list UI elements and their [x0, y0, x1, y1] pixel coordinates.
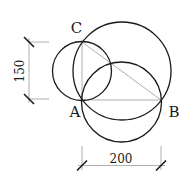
point-label-c: C	[71, 19, 82, 37]
geometry-diagram: 150 200 C A B	[0, 0, 190, 186]
point-label-a: A	[69, 103, 81, 121]
segment-bc	[82, 42, 161, 100]
circle-diameter-ab	[82, 62, 162, 142]
point-label-b: B	[168, 103, 179, 121]
dimension-label-vertical: 150	[13, 60, 27, 83]
dimension-label-horizontal: 200	[110, 152, 133, 166]
